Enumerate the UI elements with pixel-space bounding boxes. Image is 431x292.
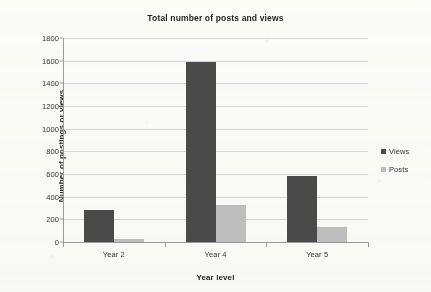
y-axis-tick-label: 800 [17, 147, 59, 156]
y-axis-tick-label: 200 [17, 215, 59, 224]
y-axis-tick-label: 400 [17, 192, 59, 201]
bar-views-year-5 [287, 176, 317, 242]
legend-label: Views [389, 147, 409, 156]
chart-legend: ViewsPosts [381, 147, 429, 183]
y-axis-tick-label: 1800 [17, 34, 59, 43]
legend-item-posts[interactable]: Posts [381, 165, 429, 174]
y-axis-tick-label: 1600 [17, 56, 59, 65]
legend-swatch-icon [381, 167, 386, 172]
legend-item-views[interactable]: Views [381, 147, 429, 156]
y-axis-tick-label: 0 [17, 238, 59, 247]
chart-title: Total number of posts and views [0, 13, 431, 23]
y-axis-tick-label: 1000 [17, 124, 59, 133]
x-axis-category-separator [63, 242, 64, 247]
x-axis-category-label: Year 5 [266, 250, 368, 259]
x-axis-category-separator [165, 242, 166, 247]
y-axis-tick-label: 600 [17, 170, 59, 179]
x-axis-category-separator [266, 242, 267, 247]
bar-chart-figure: Total number of posts and views Number o… [0, 0, 431, 292]
x-axis-category-separator [368, 242, 369, 247]
bars-layer [63, 38, 368, 242]
bar-views-year-2 [84, 210, 114, 242]
y-axis-tick-labels: 020040060080010001200140016001800 [14, 38, 59, 242]
bar-posts-year-4 [216, 205, 246, 242]
bar-views-year-4 [186, 62, 216, 242]
y-axis-tick-label: 1400 [17, 79, 59, 88]
y-axis-tick-label: 1200 [17, 102, 59, 111]
x-axis-line [63, 242, 369, 243]
legend-swatch-icon [381, 149, 386, 154]
x-axis-category-label: Year 2 [63, 250, 165, 259]
bar-posts-year-2 [114, 239, 144, 242]
legend-label: Posts [389, 165, 408, 174]
x-axis-title: Year level [63, 273, 368, 282]
bar-posts-year-5 [317, 227, 347, 242]
x-axis-category-label: Year 4 [165, 250, 267, 259]
